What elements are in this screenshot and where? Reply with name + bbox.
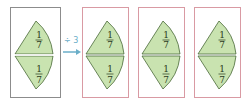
svg-text:7: 7 bbox=[107, 75, 113, 85]
svg-text:1: 1 bbox=[219, 64, 225, 74]
svg-text:1: 1 bbox=[36, 30, 42, 40]
svg-text:7: 7 bbox=[163, 40, 169, 50]
sector-pair-icon: 1 7 1 7 bbox=[11, 8, 62, 99]
sector-pair-icon: 1 7 1 7 bbox=[83, 8, 130, 99]
svg-text:1: 1 bbox=[219, 30, 225, 40]
svg-text:1: 1 bbox=[36, 64, 42, 74]
svg-text:7: 7 bbox=[163, 75, 169, 85]
svg-text:1: 1 bbox=[107, 30, 113, 40]
svg-text:1: 1 bbox=[163, 64, 169, 74]
sector-pair-icon: 1 7 1 7 bbox=[139, 8, 186, 99]
svg-text:7: 7 bbox=[36, 40, 42, 50]
result-card-2: 1 7 1 7 bbox=[138, 7, 185, 98]
source-card: 1 7 1 7 bbox=[10, 7, 61, 98]
svg-text:7: 7 bbox=[107, 40, 113, 50]
svg-text:1: 1 bbox=[107, 64, 113, 74]
sector-pair-icon: 1 7 1 7 bbox=[195, 8, 242, 99]
arrow-right-icon bbox=[61, 38, 83, 60]
result-card-1: 1 7 1 7 bbox=[82, 7, 129, 98]
svg-text:7: 7 bbox=[219, 40, 225, 50]
svg-text:7: 7 bbox=[219, 75, 225, 85]
svg-text:7: 7 bbox=[36, 75, 42, 85]
result-card-3: 1 7 1 7 bbox=[194, 7, 241, 98]
svg-text:1: 1 bbox=[163, 30, 169, 40]
